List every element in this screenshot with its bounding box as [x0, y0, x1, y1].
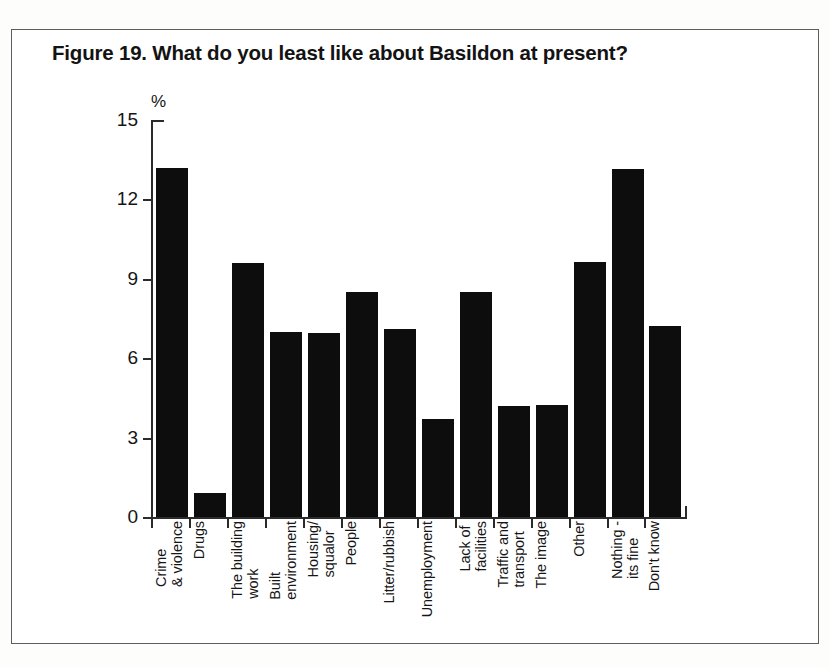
category-label: Lack of facilities	[458, 521, 489, 572]
bar	[194, 493, 226, 517]
y-tick-label: 3	[127, 427, 138, 449]
category-label: Traffic and transport	[496, 521, 527, 588]
bar	[649, 326, 681, 517]
y-tick-mark	[143, 279, 152, 281]
category-label: Unemployment	[420, 521, 436, 617]
scanned-page: Figure 19. What do you least like about …	[0, 0, 830, 668]
y-tick-label: 15	[117, 109, 138, 131]
bar	[460, 292, 492, 517]
bar	[384, 329, 416, 517]
bar	[422, 419, 454, 517]
bar	[612, 169, 644, 517]
bar	[270, 332, 302, 517]
category-label: The image	[534, 521, 550, 589]
bar	[536, 405, 568, 517]
y-tick-label: 6	[127, 347, 138, 369]
bar	[346, 292, 378, 517]
x-axis-end-tick	[685, 506, 687, 518]
bar	[156, 168, 188, 517]
category-label: Litter/rubbish	[382, 521, 398, 603]
y-axis	[151, 120, 153, 517]
x-axis-category-labels: Crime & violenceDrugsThe building workBu…	[151, 521, 687, 646]
category-label: Crime & violence	[154, 521, 185, 587]
category-label: Housing/ squalor	[306, 521, 337, 577]
plot-area: 03691215	[151, 120, 687, 517]
y-tick-label: 9	[127, 268, 138, 290]
category-label: People	[344, 521, 360, 566]
category-label: Nothing - its fine	[610, 521, 641, 579]
y-tick-label: 12	[117, 188, 138, 210]
category-label: Don't know	[647, 521, 663, 591]
category-label: Other	[572, 521, 588, 557]
bar	[308, 333, 340, 517]
bar	[574, 262, 606, 517]
y-tick-mark	[143, 438, 152, 440]
bar	[232, 263, 264, 517]
y-axis-unit-label: %	[151, 92, 166, 112]
y-tick-mark	[143, 358, 152, 360]
category-label: The building work	[230, 521, 261, 599]
bar	[498, 406, 530, 517]
category-label: Built environment	[268, 521, 299, 600]
y-tick-label: 0	[127, 506, 138, 528]
y-axis-top-cap	[151, 120, 164, 122]
category-label: Drugs	[192, 521, 208, 559]
y-tick-mark	[143, 199, 152, 201]
page-title: Figure 19. What do you least like about …	[52, 41, 628, 65]
